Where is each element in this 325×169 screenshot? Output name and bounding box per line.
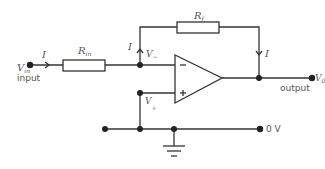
ground-node-1	[137, 126, 143, 132]
current-label-input: I	[42, 50, 46, 60]
vplus-label: V+	[145, 97, 157, 111]
feedback-wire-right	[219, 27, 259, 78]
vminus-node	[137, 62, 143, 68]
vplus-node	[137, 90, 143, 96]
zero-v-label: 0 V	[266, 125, 281, 134]
ground-left-terminal	[102, 126, 108, 132]
current-label-feedback: I	[128, 42, 132, 52]
output-node	[256, 75, 262, 81]
input-label: input	[17, 74, 40, 83]
current-label-output: I	[265, 49, 269, 59]
output-label: output	[280, 84, 310, 93]
rin-resistor	[63, 60, 105, 71]
zero-v-terminal	[257, 126, 263, 132]
vminus-label: V−	[146, 50, 158, 60]
op-amp-triangle	[175, 55, 222, 103]
rf-resistor	[177, 22, 219, 33]
ground-node-2	[171, 126, 177, 132]
rin-label: Rin	[78, 46, 91, 57]
rf-label: Rf	[194, 11, 204, 22]
vo-label: V0	[315, 74, 325, 84]
